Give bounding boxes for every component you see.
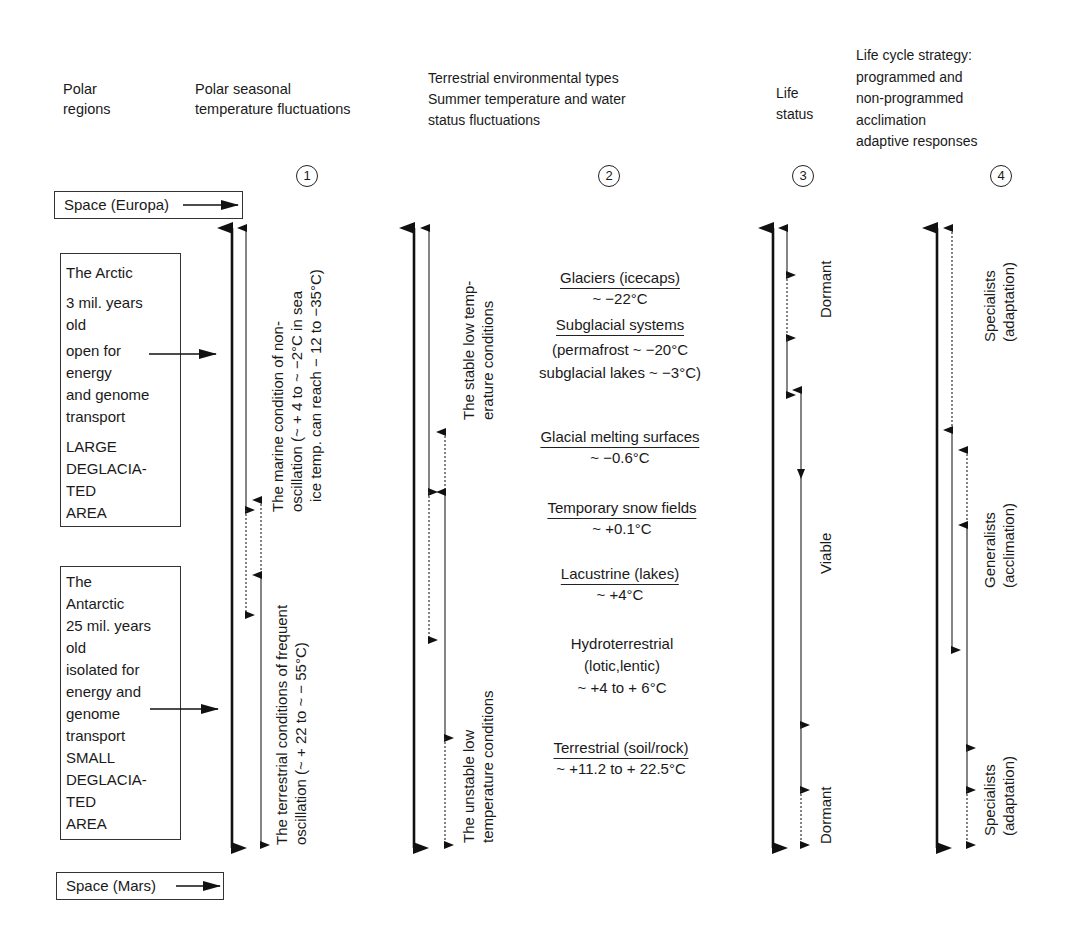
- env-hydroterrestrial: Hydroterrestrial (lotic,lentic) ~ +4 to …: [571, 633, 674, 699]
- marine-line: oscillation (~ + 4 to ~ −2°C in sea: [287, 269, 306, 512]
- stable-line: The stable low temp-: [459, 281, 478, 420]
- strategy-specialists-top: Specialists (adaptation): [980, 262, 1018, 342]
- env-temp: ~ +0.1°C: [547, 519, 696, 538]
- env-terrestrial-soil: Terrestrial (soil/rock) ~ +11.2 to + 22.…: [553, 738, 688, 778]
- marine-line: The marine condition of non-: [268, 269, 287, 512]
- env-lacustrine: Lacustrine (lakes) ~ +4°C: [561, 564, 679, 604]
- life-status-dormant-top: Dormant: [816, 260, 835, 318]
- unstable-line: temperature conditions: [478, 690, 497, 843]
- env-name: Terrestrial (soil/rock): [553, 738, 688, 759]
- env-snow-fields: Temporary snow fields ~ +0.1°C: [547, 498, 696, 538]
- env-temp: ~ +4°C: [561, 585, 679, 604]
- strategy-line: Generalists: [980, 503, 999, 588]
- env-name: Subglacial systems: [556, 315, 684, 336]
- stable-line: erature conditions: [478, 281, 497, 420]
- terrestrial-line: The terrestrial conditions of frequent: [272, 605, 291, 845]
- env-glaciers: Glaciers (icecaps) ~ −22°C: [560, 268, 680, 308]
- env-name: Temporary snow fields: [547, 498, 696, 519]
- life-status-viable: Viable: [816, 533, 835, 574]
- env-name: Glaciers (icecaps): [560, 268, 680, 289]
- env-temp: ~ −0.6°C: [540, 448, 699, 467]
- env-glacial-melting: Glacial melting surfaces ~ −0.6°C: [540, 427, 699, 467]
- terrestrial-line: oscillation (~ + 22 to ~ − 55°C): [291, 605, 310, 845]
- env-temp: ~ +11.2 to + 22.5°C: [553, 759, 688, 778]
- strategy-line: Specialists: [980, 756, 999, 836]
- terrestrial-condition-label: The terrestrial conditions of frequent o…: [272, 605, 310, 845]
- strategy-line: (adaptation): [999, 262, 1018, 342]
- strategy-line: (acclimation): [999, 503, 1018, 588]
- env-temp: ~ +4 to + 6°C: [571, 677, 674, 699]
- stable-conditions-label: The stable low temp- erature conditions: [459, 281, 497, 420]
- strategy-line: (adaptation): [999, 756, 1018, 836]
- env-name: Glacial melting surfaces: [540, 427, 699, 448]
- env-name: Hydroterrestrial: [571, 633, 674, 655]
- unstable-conditions-label: The unstable low temperature conditions: [459, 690, 497, 843]
- env-temp: subglacial lakes ~ −3°C): [539, 363, 701, 382]
- marine-condition-label: The marine condition of non- oscillation…: [268, 269, 325, 512]
- env-temp: (permafrost ~ −20°C: [539, 340, 701, 359]
- unstable-line: The unstable low: [459, 690, 478, 843]
- arrows-layer: [0, 0, 1081, 948]
- strategy-specialists-bottom: Specialists (adaptation): [980, 756, 1018, 836]
- env-subglacial: Subglacial systems (permafrost ~ −20°C s…: [539, 315, 701, 382]
- env-temp: (lotic,lentic): [571, 655, 674, 677]
- env-temp: ~ −22°C: [560, 289, 680, 308]
- life-status-dormant-bottom: Dormant: [816, 786, 835, 844]
- marine-line: ice temp. can reach − 12 to −35°C): [306, 269, 325, 512]
- strategy-generalists: Generalists (acclimation): [980, 503, 1018, 588]
- strategy-line: Specialists: [980, 262, 999, 342]
- env-name: Lacustrine (lakes): [561, 564, 679, 585]
